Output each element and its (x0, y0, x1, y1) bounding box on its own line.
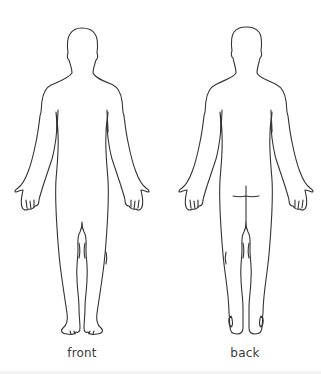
back-body-outline (179, 27, 313, 334)
front-body-outline (15, 28, 149, 334)
front-label: front (42, 346, 122, 360)
back-label: back (205, 346, 285, 360)
body-diagram (0, 0, 321, 374)
